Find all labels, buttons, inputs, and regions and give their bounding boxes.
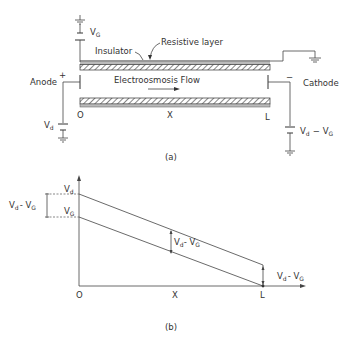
left-dimension-arrow [45, 194, 49, 217]
origin-b-label: O [76, 290, 83, 300]
right-diff-label: Vd- VG [277, 271, 304, 282]
length-b-label: L [260, 290, 265, 300]
gate-battery-icon [75, 24, 85, 62]
bottom-channel-wall [80, 98, 270, 107]
part-b-plot: Vd VG Vd- VG Vd- VG Vd- VG O X L (b) [9, 175, 306, 332]
x-b-label: X [172, 290, 178, 300]
right-dimension-arrow [262, 265, 265, 286]
middle-diff-label: Vd- VG [174, 237, 200, 248]
vd-label: Vd [64, 184, 74, 195]
top-channel-wall [80, 61, 270, 70]
y-axis-arrow-icon [77, 175, 81, 181]
right-ground-icon [309, 58, 321, 62]
cathode-ground-icon [285, 151, 295, 155]
resistive-layer-lead [270, 51, 315, 61]
caption-b: (b) [165, 322, 177, 332]
anode-plus-sign: + [59, 70, 66, 80]
cathode-minus-sign: − [286, 72, 293, 82]
flow-label: Electroosmosis Flow [114, 75, 200, 85]
vg-label: VG [64, 206, 75, 217]
caption-a: (a) [165, 152, 177, 162]
anode-label: Anode [30, 77, 57, 87]
part-a-schematic: VG Insulator Resistive layer Anode + [30, 15, 339, 162]
arrowhead-icon [148, 55, 152, 60]
resistive-layer-label: Resistive layer [161, 37, 223, 47]
x-axis-arrow-icon [300, 284, 306, 288]
origin-label: O [77, 110, 84, 120]
left-diff-label: Vd- VG [9, 200, 36, 211]
drive-battery-icon [58, 124, 68, 138]
gate-voltage-label: VG [90, 27, 101, 38]
electroosmosis-figure: VG Insulator Resistive layer Anode + [0, 0, 349, 348]
cathode-battery-icon [285, 127, 295, 151]
cathode-lead [268, 82, 290, 126]
middle-dimension-arrow [170, 230, 173, 254]
anode-ground-icon [58, 138, 68, 142]
insulator-label: Insulator [95, 46, 133, 56]
x-label: X [167, 110, 173, 120]
gate-ground-icon [75, 15, 85, 24]
length-label: L [265, 112, 270, 122]
upper-potential-line [79, 194, 263, 265]
insulator-layer [80, 65, 270, 71]
cathode-voltage-label: Vd−VG [300, 126, 334, 137]
cathode-label: Cathode [303, 78, 339, 88]
drive-voltage-label: Vd [44, 120, 54, 131]
flow-arrow-icon [174, 87, 180, 91]
insulator-leader [135, 52, 143, 60]
